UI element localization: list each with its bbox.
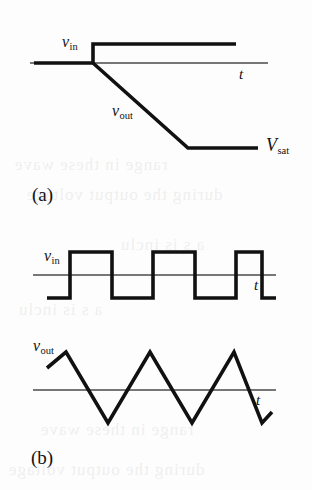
panel-a-caption: (a): [32, 185, 53, 204]
panel-a-vin-base: v: [62, 33, 69, 50]
panel-b-vout-sub: out: [41, 345, 54, 356]
figure-container: range in these wave during the output vo…: [0, 0, 312, 490]
panel-a-vout-base: v: [112, 102, 119, 119]
panel-b-vout-base: v: [33, 337, 40, 354]
panel-b-vout-label: vout: [33, 338, 54, 354]
panel-b: vin t vout t (b): [0, 230, 312, 490]
panel-a-vin-sub: in: [70, 41, 78, 52]
panel-a-t-axis-label: t: [239, 67, 243, 82]
panel-b-caption: (b): [31, 448, 53, 467]
panel-a-plot: [0, 0, 312, 215]
panel-b-vout-waveform: [47, 352, 272, 423]
panel-a-vout-label: vout: [112, 103, 133, 119]
panel-a-vsat-base: V: [266, 135, 277, 155]
panel-a: vin vout Vsat t (a): [0, 0, 312, 215]
panel-a-vsat-label: Vsat: [266, 136, 289, 154]
panel-b-vin-sub: in: [52, 255, 60, 266]
panel-a-vsat-sub: sat: [278, 145, 290, 156]
panel-a-vin-label: vin: [62, 34, 77, 50]
panel-b-vin-plot: [0, 230, 312, 320]
panel-b-vin-t-axis-label: t: [254, 278, 258, 293]
panel-b-vin-base: v: [44, 247, 51, 264]
panel-b-vin-label: vin: [44, 248, 59, 264]
panel-a-vout-sub: out: [120, 110, 133, 121]
panel-b-vout-t-axis-label: t: [256, 393, 260, 408]
